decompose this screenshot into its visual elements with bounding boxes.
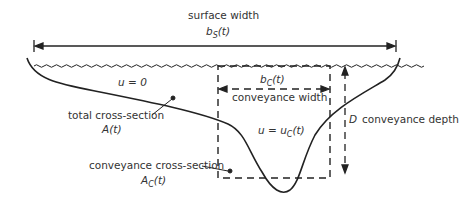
conveyance-cross-section-label: conveyance cross-section — [89, 160, 224, 171]
total-cross-section-label: total cross-section — [68, 110, 164, 121]
surface-width-symbol: bS(t) — [206, 26, 230, 40]
conveyance-cs-arg: (t) — [154, 174, 166, 186]
surface-width-arrow — [34, 40, 396, 52]
conveyance-depth-label: conveyance depth — [362, 114, 459, 125]
conveyance-depth-arrow — [342, 67, 348, 173]
conveyance-width-label: conveyance width — [232, 92, 327, 103]
conveyance-width-arg: (t) — [272, 73, 284, 85]
surface-width-label: surface width — [188, 10, 259, 21]
u-conveyance-label: u = uC(t) — [258, 125, 305, 139]
conveyance-width-symbol: bC(t) — [260, 74, 285, 88]
depth-symbol: D — [349, 114, 357, 125]
conveyance-width-b: b — [260, 73, 267, 85]
surface-width-b: b — [206, 25, 213, 37]
total-cross-section-symbol: A(t) — [102, 124, 122, 135]
surface-width-arg: (t) — [218, 25, 230, 37]
u-conveyance-arg: (t) — [292, 124, 304, 136]
u-zero-label: u = 0 — [118, 77, 147, 88]
water-surface — [34, 65, 424, 68]
u-conveyance-prefix: u = u — [258, 124, 287, 136]
conveyance-cross-section-symbol: AC(t) — [141, 175, 166, 189]
